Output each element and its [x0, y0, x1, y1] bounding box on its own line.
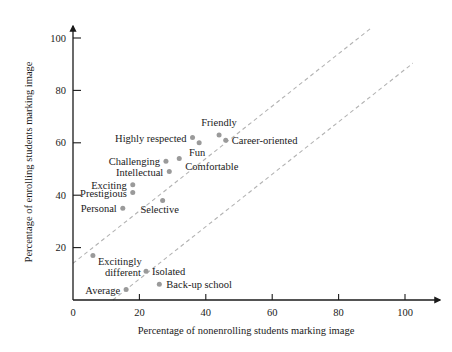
y-axis-title: Percentage of enrolling students marking…: [23, 61, 34, 262]
data-point-label: Friendly: [201, 117, 237, 128]
data-point-marker: [144, 269, 149, 274]
data-point-marker: [197, 140, 202, 145]
data-point-marker: [160, 198, 165, 203]
y-tick-label: 60: [56, 137, 67, 148]
data-point-label: Isolated: [152, 266, 186, 277]
data-point-label: Back-up school: [166, 279, 232, 290]
x-tick-label: 40: [201, 307, 212, 318]
data-point-marker: [177, 156, 182, 161]
y-tick-label: 20: [56, 242, 67, 253]
data-point-label: Prestigious: [80, 188, 127, 199]
data-point-marker: [163, 159, 168, 164]
y-tick-label: 100: [50, 33, 66, 44]
data-point-marker: [90, 253, 95, 258]
data-point-label: Average: [85, 285, 120, 296]
data-point-label: Fun: [189, 147, 206, 158]
data-point-label: Highly respected: [115, 133, 187, 144]
data-point-label: Career-oriented: [232, 135, 298, 146]
y-axis-ticks: 20406080100: [50, 33, 81, 254]
x-tick-label: 0: [70, 307, 75, 318]
data-point-marker: [157, 282, 162, 287]
data-point-label: Selective: [140, 204, 179, 215]
data-point-marker: [130, 190, 135, 195]
x-tick-label: 60: [267, 307, 278, 318]
data-point-marker: [217, 132, 222, 137]
data-point-label: Personal: [81, 203, 117, 214]
y-tick-label: 80: [56, 85, 67, 96]
data-point-marker: [120, 206, 125, 211]
data-point-label: Excitingly: [98, 256, 142, 267]
data-point-label: Comfortable: [185, 161, 238, 172]
x-tick-label: 80: [333, 307, 344, 318]
data-point-label: Challenging: [109, 156, 161, 167]
scatter-chart: 020406080100 20406080100 FriendlyCareer-…: [0, 0, 452, 352]
data-point-marker: [167, 169, 172, 174]
data-point-label: Intellectual: [116, 167, 163, 178]
x-axis-title: Percentage of nonenrolling students mark…: [138, 325, 355, 336]
data-points-group: FriendlyCareer-orientedHighly respectedF…: [80, 117, 298, 296]
x-tick-label: 100: [397, 307, 413, 318]
plot-canvas: 020406080100 20406080100 FriendlyCareer-…: [0, 0, 452, 352]
data-point-marker: [190, 135, 195, 140]
upper-reference-line: [73, 28, 372, 264]
data-point-marker: [124, 287, 129, 292]
data-point-marker: [130, 182, 135, 187]
data-point-marker: [223, 138, 228, 143]
x-axis-ticks: 020406080100: [70, 294, 413, 318]
x-tick-label: 20: [134, 307, 145, 318]
lower-reference-line: [113, 56, 422, 300]
y-tick-label: 40: [56, 190, 67, 201]
data-point-label: different: [105, 267, 141, 278]
